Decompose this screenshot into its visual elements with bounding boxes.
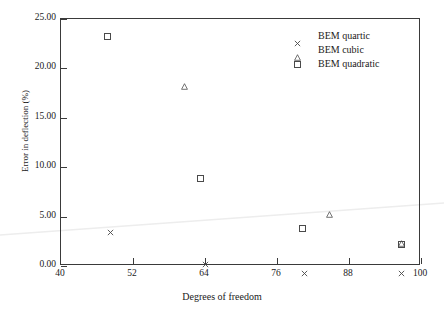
x-axis-tick-label: 88: [328, 269, 368, 279]
y-axis-tick: [61, 68, 67, 69]
x-axis-title: Degrees of freedom: [0, 291, 444, 302]
data-point: [107, 222, 114, 229]
data-point: [181, 76, 188, 83]
x-marker-icon: [294, 33, 301, 40]
x-axis-tick: [277, 258, 278, 264]
y-axis-tick: [61, 266, 67, 267]
y-axis-tick: [61, 19, 67, 20]
legend-label: BEM cubic: [318, 44, 364, 56]
legend-label: BEM quartic: [318, 30, 370, 42]
y-axis-tick: [61, 118, 67, 119]
x-axis-tick: [133, 258, 134, 264]
y-axis-title: Error in deflection (%): [20, 46, 30, 216]
x-axis-tick: [421, 258, 422, 264]
chart-figure: 0.005.0010.0015.0020.0025.00 40526476881…: [0, 0, 444, 315]
data-point: [301, 263, 308, 270]
x-axis-tick-label: 64: [184, 269, 224, 279]
legend-label: BEM quadratic: [318, 58, 379, 70]
data-point: [398, 241, 405, 248]
x-axis-tick-label: 40: [40, 269, 80, 279]
x-axis-tick-label: 52: [112, 269, 152, 279]
data-point: [104, 33, 111, 40]
data-point: [202, 254, 209, 261]
y-axis-tick: [61, 217, 67, 218]
square-marker-icon: [294, 61, 301, 68]
chart-legend: BEM quarticBEM cubicBEM quadratic: [292, 30, 416, 76]
x-axis-tick-label: 76: [256, 269, 296, 279]
triangle-marker-icon: [294, 47, 301, 54]
y-axis-tick-label: 25.00: [0, 13, 56, 23]
data-point: [197, 175, 204, 182]
data-point: [299, 225, 306, 232]
y-axis-tick: [61, 167, 67, 168]
data-point: [398, 233, 405, 240]
x-axis-tick-label: 100: [400, 269, 440, 279]
legend-item: BEM quartic: [292, 30, 416, 44]
legend-item: BEM quadratic: [292, 58, 416, 72]
legend-item: BEM cubic: [292, 44, 416, 58]
data-point: [326, 204, 333, 211]
x-axis-tick: [349, 258, 350, 264]
